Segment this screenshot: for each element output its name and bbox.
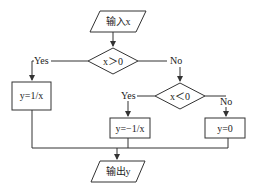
cond1-label: x＞0: [103, 56, 123, 67]
proc3-label: y=0: [217, 123, 233, 134]
cond2-yes-label: Yes: [121, 90, 136, 101]
process-y-1-over-x: y=1/x: [12, 82, 51, 110]
cond1-no-label: No: [170, 55, 182, 66]
flowchart: 输入x x＞0 Yes y=1/x No x＜0 Yes y=−1/x No y…: [0, 0, 253, 191]
process-y-0: y=0: [205, 118, 245, 138]
input-node: 输入x: [90, 11, 146, 32]
input-label: 输入x: [106, 15, 131, 27]
cond2-no-label: No: [220, 96, 232, 107]
proc2-label: y=−1/x: [115, 123, 144, 134]
output-node: 输出y: [91, 161, 145, 182]
output-label: 输出y: [106, 165, 131, 177]
condition-x-gt-0: x＞0: [88, 48, 138, 74]
cond2-label: x＜0: [170, 91, 190, 102]
process-y-neg-1-over-x: y=−1/x: [110, 118, 150, 138]
cond1-yes-label: Yes: [34, 55, 49, 66]
proc1-label: y=1/x: [20, 90, 43, 101]
condition-x-lt-0: x＜0: [155, 83, 205, 109]
